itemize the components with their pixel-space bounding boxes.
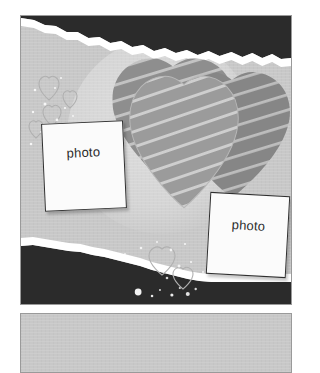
photo-placeholder-right[interactable]: photo	[206, 192, 290, 278]
photo-placeholder-left[interactable]: photo	[41, 120, 127, 212]
main-layout-panel[interactable]: photo photo	[20, 15, 292, 305]
photo-placeholder-left-label: photo	[66, 145, 100, 160]
photo-placeholder-right-label: photo	[231, 218, 265, 233]
striped-heart-front-center	[125, 72, 243, 212]
secondary-layout-panel[interactable]	[20, 313, 292, 373]
secondary-paper-texture	[21, 314, 291, 372]
